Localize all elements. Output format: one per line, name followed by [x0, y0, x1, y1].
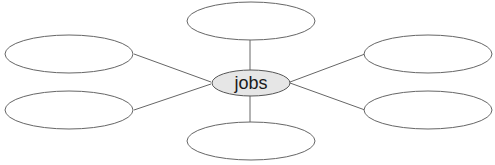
branch-ellipse-lower-right[interactable]	[364, 91, 492, 129]
center-label: jobs	[212, 70, 290, 96]
connector-upper-left	[134, 54, 211, 82]
connector-upper-right	[290, 54, 365, 82]
branch-ellipse-bottom[interactable]	[187, 122, 315, 160]
branch-ellipse-lower-left[interactable]	[5, 91, 133, 129]
branch-ellipse-upper-right[interactable]	[364, 35, 492, 73]
connector-lower-left	[134, 84, 211, 110]
branch-ellipse-top[interactable]	[187, 2, 315, 40]
connector-lower-right	[290, 83, 365, 110]
branch-ellipse-upper-left[interactable]	[5, 35, 133, 73]
